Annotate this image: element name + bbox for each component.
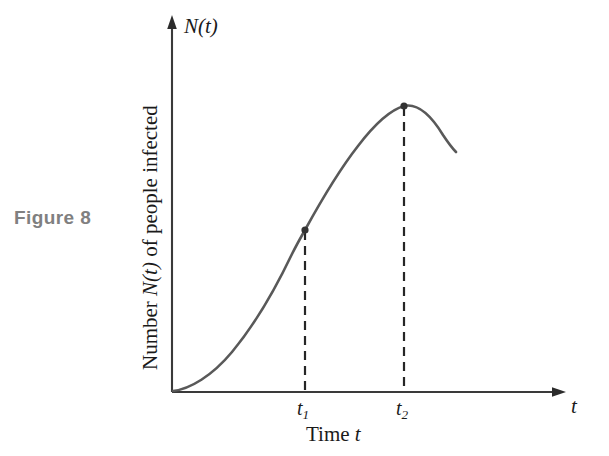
x-axis-title-symbol: t (355, 422, 361, 446)
tick-t2-subscript: 2 (402, 407, 409, 422)
y-axis-title-pre: Number (138, 296, 162, 370)
x-axis-title: Time t (306, 424, 361, 445)
y-axis-symbol-label: N(t) (184, 16, 218, 37)
figure-container: Figure 8 N(t) t t1 t2 (0, 0, 609, 456)
x-tick-label-t2: t2 (396, 398, 408, 421)
maximum-point-marker (400, 102, 407, 109)
x-axis-symbol: t (571, 394, 577, 418)
x-axis-title-text: Time (306, 422, 355, 446)
x-tick-label-t1: t1 (297, 398, 309, 421)
y-axis-title-symbol: N (138, 282, 162, 296)
y-axis-arrowhead (167, 15, 177, 29)
x-axis-symbol-label: t (571, 396, 577, 417)
y-axis-title-symbol-arg: (t) (138, 262, 162, 282)
x-axis (172, 387, 566, 397)
inflection-point-marker (301, 226, 308, 233)
infection-curve (173, 106, 456, 391)
x-axis-arrowhead (552, 387, 566, 397)
y-axis-symbol-base: N (184, 14, 198, 38)
tick-t1-subscript: 1 (303, 407, 310, 422)
plot-area (0, 0, 609, 456)
y-axis-symbol-arg: (t) (198, 14, 218, 38)
y-axis-title: Number N(t) of people infected (140, 105, 161, 370)
y-axis (167, 15, 177, 392)
y-axis-title-post: of people infected (138, 105, 162, 262)
